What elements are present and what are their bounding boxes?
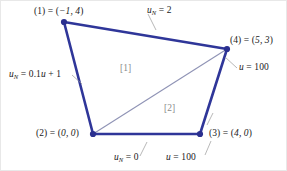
- node-1[interactable]: [61, 19, 67, 25]
- node-4[interactable]: [224, 46, 230, 52]
- figure-canvas: (1) = (−1, 4) (2) = (0, 0) (3) = (4, 0) …: [0, 0, 287, 171]
- bc-bottom-label: uN = 0: [114, 153, 139, 163]
- interior-edge-2-4: [93, 49, 227, 134]
- element-1-label: [1]: [120, 64, 131, 74]
- boundary-edge-3-4: [200, 49, 227, 134]
- leader-line-bc-bottom-right: [205, 141, 211, 155]
- leader-line-bc-right: [225, 57, 237, 68]
- bc-bottom-right-label: u = 100: [166, 153, 196, 163]
- node-2-label: (2) = (0, 0): [36, 129, 79, 139]
- node-2[interactable]: [90, 131, 96, 137]
- leader-line-node3: [207, 113, 213, 125]
- bc-left-label: uN = 0.1u + 1: [9, 70, 61, 80]
- leader-line-bc-top: [148, 14, 156, 30]
- node-1-label: (1) = (−1, 4): [34, 7, 84, 17]
- node-3[interactable]: [197, 131, 203, 137]
- mesh-diagram: [1, 1, 287, 171]
- node-3-label: (3) = (4, 0): [209, 129, 252, 139]
- leader-line-bc-bottom: [140, 142, 147, 156]
- bc-top-label: uN = 2: [147, 6, 172, 16]
- element-2-label: [2]: [164, 104, 175, 114]
- bc-right-label: u = 100: [239, 63, 269, 73]
- boundary-edge-1-2: [64, 22, 93, 134]
- node-4-label: (4) = (5, 3): [230, 36, 273, 46]
- boundary-edge-1-4: [64, 22, 227, 49]
